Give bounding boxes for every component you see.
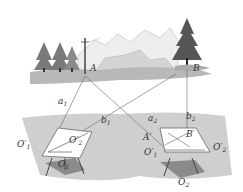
left-trees xyxy=(34,42,80,72)
label-A: A xyxy=(90,64,97,73)
label-O1: O1 xyxy=(58,160,69,170)
label-B: B xyxy=(193,64,200,73)
label-O2: O2 xyxy=(178,178,189,188)
label-a1: a1 xyxy=(58,97,67,107)
label-O2-prime-left: O′2 xyxy=(69,136,82,146)
label-B-prime: B′ xyxy=(186,130,195,139)
label-O1-prime-left: O′1 xyxy=(17,140,30,150)
label-A-prime: A′ xyxy=(143,133,152,142)
label-O1-prime-right: O′1 xyxy=(144,148,157,158)
label-a2: a2 xyxy=(148,114,157,124)
surveying-diagram xyxy=(0,0,243,192)
label-O2-prime-right: O′2 xyxy=(213,143,226,153)
label-b1: b1 xyxy=(101,116,111,126)
label-b2: b2 xyxy=(186,112,196,122)
